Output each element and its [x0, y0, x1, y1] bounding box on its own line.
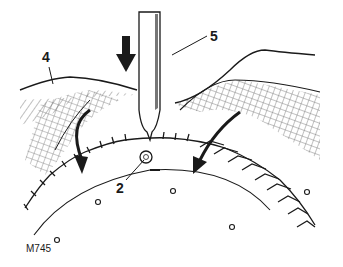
leader-2 — [126, 160, 144, 180]
chisel-tool — [139, 12, 160, 140]
leader-4 — [49, 67, 53, 84]
drilled-hole — [140, 151, 152, 163]
callout-5: 5 — [210, 29, 218, 43]
figure-id-label: M745 — [26, 244, 51, 254]
press-direction-arrow-icon — [116, 36, 136, 72]
housing — [20, 50, 320, 175]
rotation-arrow-right-icon — [200, 112, 240, 160]
callout-2: 2 — [116, 181, 124, 195]
flywheel-ring-gear-illustration — [0, 0, 343, 267]
callout-4: 4 — [42, 50, 50, 64]
leader-5 — [172, 36, 207, 55]
flywheel-face — [34, 170, 310, 243]
